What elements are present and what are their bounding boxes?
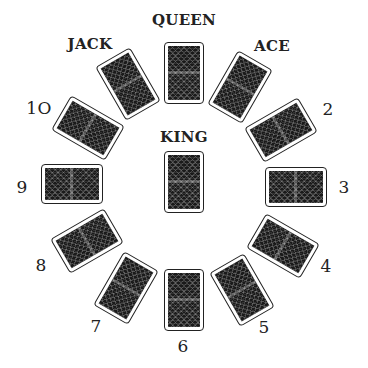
- label-seven: 7: [90, 316, 101, 336]
- card-ace[interactable]: [207, 50, 273, 124]
- label-ten: 1O: [26, 98, 51, 118]
- card-back-pattern: [252, 219, 315, 274]
- card-back-pattern: [269, 171, 323, 203]
- label-two: 2: [322, 99, 333, 119]
- card-back-pattern: [213, 56, 268, 119]
- label-six: 6: [177, 336, 188, 356]
- clock-layout-diagram: QUEEN ACE 2 3 4 5 6 7 8 9 1O JACK KING: [0, 0, 368, 368]
- label-four: 4: [320, 256, 331, 276]
- label-three: 3: [338, 177, 349, 197]
- card-seven[interactable]: [93, 251, 159, 325]
- label-king: KING: [160, 128, 208, 146]
- card-six[interactable]: [164, 269, 204, 331]
- card-queen[interactable]: [164, 42, 204, 104]
- card-king[interactable]: [164, 151, 204, 213]
- label-eight: 8: [35, 255, 46, 275]
- label-ace: ACE: [254, 37, 290, 55]
- card-back-pattern: [250, 103, 313, 158]
- card-four[interactable]: [246, 213, 320, 279]
- card-eight[interactable]: [50, 208, 124, 274]
- card-back-pattern: [168, 46, 200, 100]
- card-three[interactable]: [265, 167, 327, 207]
- label-queen: QUEEN: [152, 11, 216, 29]
- card-nine[interactable]: [41, 164, 103, 204]
- label-nine: 9: [16, 177, 27, 197]
- card-back-pattern: [57, 101, 120, 156]
- card-back-pattern: [215, 259, 270, 322]
- card-back-pattern: [99, 257, 154, 320]
- card-back-pattern: [168, 273, 200, 327]
- card-two[interactable]: [244, 97, 318, 163]
- card-back-pattern: [56, 214, 119, 269]
- card-back-pattern: [101, 53, 156, 116]
- card-ten[interactable]: [51, 95, 125, 161]
- card-jack[interactable]: [95, 47, 161, 121]
- card-back-pattern: [168, 155, 200, 209]
- label-five: 5: [258, 317, 269, 337]
- label-jack: JACK: [68, 35, 113, 53]
- card-five[interactable]: [209, 253, 275, 327]
- card-back-pattern: [45, 168, 99, 200]
